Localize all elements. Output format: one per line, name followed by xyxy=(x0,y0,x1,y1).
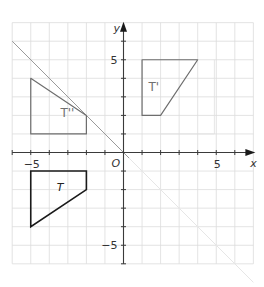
shape-label-t-prime: T' xyxy=(148,80,160,94)
shape-label-t-double-prime: T'' xyxy=(59,106,74,120)
x-axis-arrow-icon xyxy=(245,149,255,156)
origin-label: O xyxy=(112,157,121,170)
y-tick-label-neg5: −5 xyxy=(101,239,117,252)
y-tick-label-5: 5 xyxy=(111,54,118,67)
y-axis-arrow-icon xyxy=(120,22,127,32)
shape-label-t: T xyxy=(57,181,65,194)
shape-t xyxy=(31,171,87,227)
x-tick-label-5: 5 xyxy=(214,158,221,171)
grid-lines xyxy=(12,23,253,264)
shape-tpp xyxy=(31,78,87,134)
coordinate-grid-diagram: x y O −5 5 5 −5 T T' T'' xyxy=(0,0,264,287)
x-tick-label-neg5: −5 xyxy=(24,158,40,171)
y-axis-label: y xyxy=(113,22,121,35)
x-axis-label: x xyxy=(249,157,257,170)
axes xyxy=(12,22,255,264)
